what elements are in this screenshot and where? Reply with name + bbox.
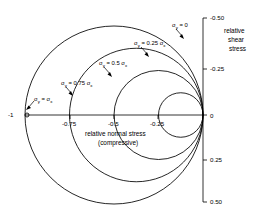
y-axis-title-line3: stress [229, 45, 246, 52]
y-tick-label-neg-0p25: -0.25 [210, 65, 225, 72]
arrowhead-sigma-y-0 [180, 34, 185, 39]
y-axis-title-line1: relative [224, 27, 245, 34]
annotation-sigma-y-0-rest: = 0 [178, 22, 189, 28]
annotation-sigma-y-0p25-rest: = 0.25 [140, 40, 160, 46]
annotation-sigma-y-0: σy = 0 [172, 22, 189, 30]
y-tick-label-neg-0p50: -0.50 [210, 14, 225, 21]
annotation-sigma-y-0p5-sub2: x [125, 63, 128, 68]
annotation-sigma-y-0p25: σy = 0.25 σx [134, 40, 166, 48]
x-axis-title-line2: (compressive) [98, 139, 138, 147]
annotation-sigma-y-equals-sigma-x: σy = σx [34, 96, 53, 104]
x-axis-title-line1: relative normal stress [85, 130, 146, 137]
mohrs-circle-figure: -0.50 -0.25 0 0.25 0.50 -1 -0.75 -0.5 -0… [0, 0, 259, 210]
annotation-sigma-y-0p75: σy = 0.75 σx [61, 80, 93, 88]
annotation-sigma-y-0p5-rest: = 0.5 [105, 60, 122, 66]
arrowhead-sigma-y-0p25 [145, 52, 150, 57]
y-tick-label-0p50: 0.50 [210, 198, 223, 205]
x-tick-label-neg-0p25: -0.25 [150, 120, 165, 127]
annotation-sigma-y-0p25-sub2: x [163, 43, 166, 48]
annotation-sigma-y-0p5: σy = 0.5 σx [99, 60, 128, 68]
x-tick-label-neg-0p5: -0.5 [108, 120, 119, 127]
arrowhead-sigma-y-0p5 [108, 72, 113, 77]
y-tick-label-0: 0 [210, 112, 214, 119]
annotation-sigma-y-eq-sub2: x [50, 99, 53, 104]
arrowhead-sigma-y-equals-sigma-x [26, 106, 31, 111]
y-axis-title-line2: shear [228, 36, 245, 43]
annotation-sigma-y-0p75-sub2: x [90, 83, 93, 88]
x-tick-label-neg-1: -1 [8, 111, 14, 118]
annotation-sigma-y-eq-rest: = [40, 96, 47, 102]
arrowhead-sigma-y-0p75 [69, 91, 74, 96]
y-tick-label-0p25: 0.25 [210, 156, 223, 163]
x-tick-label-neg-0p75: -0.75 [62, 120, 77, 127]
annotation-sigma-y-0p75-rest: = 0.75 [67, 80, 87, 86]
mohrs-circle-plot: -0.50 -0.25 0 0.25 0.50 -1 -0.75 -0.5 -0… [0, 0, 259, 210]
